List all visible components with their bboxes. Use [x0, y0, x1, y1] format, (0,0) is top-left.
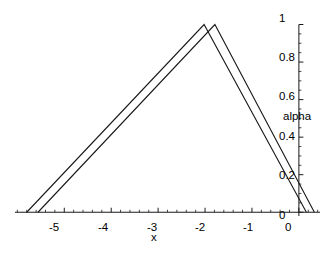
y-tick-label: 0.2 [279, 170, 295, 182]
x-tick-label: -2 [195, 222, 205, 234]
series-line [38, 25, 314, 213]
x-tick-label: -5 [49, 222, 59, 234]
y-tick-label: 0.4 [279, 131, 295, 143]
y-axis-label: alpha [283, 111, 311, 123]
axis-group [15, 25, 320, 216]
x-axis-label: x [151, 232, 157, 244]
y-tick-label: 0.6 [279, 91, 295, 103]
x-tick-label: -4 [98, 222, 108, 234]
x-tick-label: 0 [285, 222, 291, 234]
series-group [27, 25, 315, 213]
chart-figure: -5 -4 -3 -2 -1 0 x 0 0.2 0.4 0.6 0.8 1 a… [0, 0, 331, 256]
y-tick-label: 1 [279, 13, 285, 25]
x-tick-label: -1 [243, 222, 253, 234]
y-tick-label: 0.8 [279, 52, 295, 64]
y-tick-label: 0 [279, 210, 285, 222]
